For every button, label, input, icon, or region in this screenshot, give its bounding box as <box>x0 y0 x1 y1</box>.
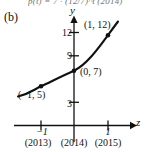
y-tick-label-12: 12 <box>59 27 72 38</box>
x-tick-label-1: 1 <box>100 126 116 137</box>
x-tick-label-neg1: −1 <box>34 126 50 137</box>
y-axis-label: y <box>70 4 75 16</box>
point-label-neg1-5: (−1, 5) <box>18 89 45 100</box>
graph-canvas <box>0 0 151 152</box>
point-label-0-7: (0, 7) <box>80 66 102 77</box>
point-marker-neg1-5 <box>39 84 44 89</box>
x-axis-label: z <box>136 116 140 128</box>
point-label-1-12: (1, 12) <box>84 19 111 30</box>
x-year-label-2015: (2015) <box>86 137 130 148</box>
x-axis <box>14 122 137 129</box>
figure-panel: p(t) = 7 · (12/7)^t (2014) (b) <box>0 0 151 152</box>
point-marker-0-7 <box>72 68 77 73</box>
y-tick-label-3: 3 <box>59 98 72 109</box>
y-tick-label-9: 9 <box>59 50 72 61</box>
point-marker-1-12 <box>106 33 111 38</box>
